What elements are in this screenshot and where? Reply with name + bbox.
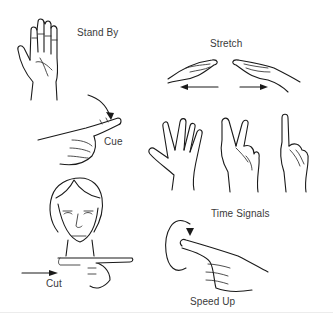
label-cue: Cue	[104, 136, 123, 147]
label-time-signals: Time Signals	[211, 208, 270, 219]
label-cut: Cut	[46, 278, 62, 289]
speed-up-hand-icon	[166, 221, 268, 292]
label-stretch: Stretch	[210, 38, 242, 49]
label-stand-by: Stand By	[77, 27, 118, 38]
stretch-hands-icon	[168, 60, 300, 92]
time-signal-one-icon	[281, 114, 309, 192]
stand-by-hand-icon	[18, 19, 58, 100]
time-signal-two-icon	[221, 118, 259, 192]
cut-face-icon	[22, 178, 133, 288]
time-signal-five-icon	[149, 119, 202, 190]
bottom-divider	[0, 312, 333, 313]
cue-hand-icon	[38, 95, 121, 165]
label-speed-up: Speed Up	[190, 296, 235, 307]
